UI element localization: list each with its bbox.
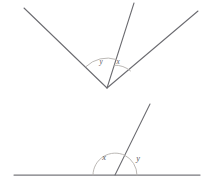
geometry-figure-canvas: y x x y — [0, 0, 209, 187]
upper-right-ray — [107, 11, 198, 88]
upper-left-ray — [24, 8, 107, 88]
angle-diagram-svg: y x x y — [0, 0, 209, 187]
upper-angle-label-right: x — [115, 58, 120, 66]
upper-figure-group: y x — [24, 3, 198, 88]
lower-angle-label-right: y — [135, 154, 140, 163]
lower-angle-label-left: x — [101, 153, 106, 162]
upper-middle-ray — [107, 3, 134, 88]
upper-angle-label-left: y — [98, 58, 103, 66]
lower-oblique-ray — [115, 104, 150, 175]
lower-figure-group: x y — [14, 104, 200, 175]
